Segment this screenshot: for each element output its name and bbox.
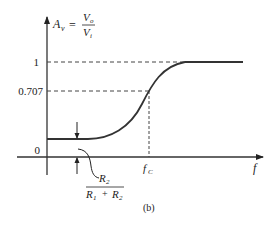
svg-text:1: 1 [93, 194, 97, 202]
x-tick-fc: f C [143, 162, 153, 176]
y-tick-0: 0 [35, 144, 41, 156]
svg-text:+: + [102, 188, 108, 199]
y-tick-0707: 0.707 [18, 85, 43, 97]
y-tick-1: 1 [34, 56, 40, 68]
svg-text:R: R [111, 188, 119, 200]
svg-text:v: v [61, 24, 65, 33]
gain-ratio-annotation: R 2 R 1 + R 2 [85, 172, 124, 202]
svg-text:2: 2 [119, 194, 123, 202]
response-curve [47, 62, 243, 139]
svg-text:i: i [90, 32, 92, 40]
figure-caption: (b) [143, 202, 155, 214]
svg-text:R: R [98, 172, 106, 184]
svg-text:2: 2 [106, 178, 110, 186]
y-axis-label: A v = V o V i [52, 11, 95, 40]
svg-text:A: A [52, 17, 61, 31]
svg-text:C: C [148, 168, 153, 176]
x-axis-label: f [253, 161, 258, 175]
svg-text:o: o [90, 17, 94, 25]
frequency-response-figure: A v = V o V i 1 0.707 0 f C f R 2 R 1 + … [0, 0, 273, 225]
svg-text:=: = [69, 18, 76, 32]
annotation-leader [78, 149, 99, 178]
frequency-response-plot: A v = V o V i 1 0.707 0 f C f R 2 R 1 + … [0, 0, 273, 225]
svg-text:R: R [85, 188, 93, 200]
